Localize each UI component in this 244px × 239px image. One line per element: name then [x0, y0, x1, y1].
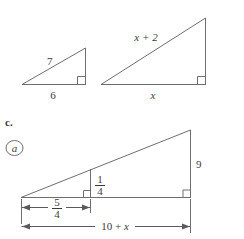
inner-base-dimension-group: 5 4 — [22, 196, 91, 224]
nested-inner-right-angle-icon — [84, 191, 91, 198]
inner-base-fraction-numerator: 5 — [54, 196, 60, 208]
small-triangle-hypotenuse-label: 7 — [47, 55, 53, 67]
large-triangle-base-label: x — [150, 89, 156, 101]
circled-a-marker: a — [6, 141, 23, 156]
total-base-label: 10 + x — [101, 220, 129, 232]
small-triangle-base-label: 6 — [50, 89, 56, 101]
inner-height-fraction: 1 4 — [95, 173, 105, 197]
total-base-dimension-group: 10 + x — [22, 199, 191, 234]
nested-triangle-group: 9 1 4 5 4 — [21, 130, 202, 234]
inner-base-fraction-denominator: 4 — [54, 208, 60, 220]
total-dim-right-arrowhead — [182, 224, 190, 230]
large-triangle-right-angle-icon — [198, 77, 206, 85]
inner-dim-right-arrowhead — [82, 205, 90, 211]
large-triangle-hypotenuse-line — [101, 18, 206, 85]
geometry-diagram-svg: 7 6 x + 2 x c. a — [0, 0, 244, 239]
geometry-figure-root: 7 6 x + 2 x c. a — [0, 0, 244, 239]
large-triangle-hypotenuse-label: x + 2 — [133, 31, 158, 43]
total-dim-left-arrowhead — [22, 224, 30, 230]
large-triangle-group: x + 2 x — [101, 18, 206, 101]
inner-dim-left-arrowhead — [22, 205, 30, 211]
circled-marker-letter: a — [12, 142, 18, 154]
small-triangle-group: 7 6 — [22, 48, 86, 101]
nested-outer-right-angle-icon — [183, 190, 191, 198]
small-triangle-right-angle-icon — [78, 77, 86, 85]
problem-letter-label: c. — [5, 116, 13, 128]
inner-height-fraction-numerator: 1 — [97, 173, 103, 185]
nested-outer-height-label: 9 — [196, 158, 202, 170]
nested-outer-hypotenuse-line — [21, 130, 191, 198]
inner-height-fraction-denominator: 4 — [97, 185, 103, 197]
small-triangle-hypotenuse-line — [22, 48, 86, 85]
